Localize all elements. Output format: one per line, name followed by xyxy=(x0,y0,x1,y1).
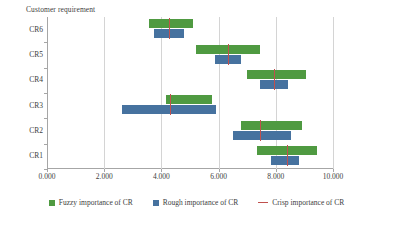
crisp-marker-cr2 xyxy=(260,120,261,141)
gridline xyxy=(333,17,334,169)
legend-swatch-icon xyxy=(49,200,55,206)
y-axis-tick xyxy=(44,68,47,69)
y-axis-tick xyxy=(44,42,47,43)
chart-legend: Fuzzy importance of CRRough importance o… xyxy=(0,198,393,207)
x-axis-tick-label: 6.000 xyxy=(210,172,227,181)
gridline xyxy=(104,17,105,169)
bar-rough-cr3 xyxy=(122,105,216,114)
legend-item-0[interactable]: Fuzzy importance of CR xyxy=(49,198,133,207)
bar-fuzzy-cr4 xyxy=(247,70,306,79)
y-axis-tick xyxy=(44,144,47,145)
x-axis-line xyxy=(47,168,333,169)
y-axis-tick-label: CR3 xyxy=(29,101,43,110)
legend-item-1[interactable]: Rough importance of CR xyxy=(153,198,239,207)
y-axis-tick-label: CR4 xyxy=(29,75,43,84)
legend-label: Fuzzy importance of CR xyxy=(59,198,133,207)
bar-fuzzy-cr3 xyxy=(166,95,212,104)
bar-rough-cr2 xyxy=(233,131,291,140)
x-axis-tick-label: 10.000 xyxy=(323,172,344,181)
bar-rough-cr1 xyxy=(271,156,299,165)
crisp-marker-cr5 xyxy=(228,44,229,65)
y-axis-tick-label: CR1 xyxy=(29,151,43,160)
y-axis-tick xyxy=(44,169,47,170)
y-axis-tick-label: CR6 xyxy=(29,25,43,34)
legend-item-2[interactable]: Crisp importance of CR xyxy=(258,198,344,207)
gridline xyxy=(219,17,220,169)
y-axis-tick xyxy=(44,93,47,94)
x-axis-tick-label: 4.000 xyxy=(153,172,170,181)
legend-label: Crisp importance of CR xyxy=(272,198,344,207)
y-axis-tick xyxy=(44,118,47,119)
x-axis-tick-label: 0.000 xyxy=(39,172,56,181)
x-axis-tick-label: 8.000 xyxy=(267,172,284,181)
y-axis-tick-label: CR5 xyxy=(29,50,43,59)
chart-container: Customer requirement CR6CR5CR4CR3CR2CR1 … xyxy=(0,0,393,228)
legend-label: Rough importance of CR xyxy=(163,198,239,207)
gridline xyxy=(161,17,162,169)
legend-line-icon xyxy=(258,202,268,203)
plot-area xyxy=(47,17,333,169)
y-axis-tick-label: CR2 xyxy=(29,126,43,135)
crisp-marker-cr1 xyxy=(287,145,288,166)
y-axis-title: Customer requirement xyxy=(26,5,95,14)
legend-swatch-icon xyxy=(153,200,159,206)
y-axis-labels: CR6CR5CR4CR3CR2CR1 xyxy=(0,17,43,169)
crisp-marker-cr3 xyxy=(170,94,171,115)
y-axis-line xyxy=(47,17,48,169)
crisp-marker-cr4 xyxy=(274,69,275,90)
bar-fuzzy-cr6 xyxy=(149,19,193,28)
bar-fuzzy-cr2 xyxy=(241,121,301,130)
x-axis-labels: 0.0002.0004.0006.0008.00010.000 xyxy=(0,172,393,186)
crisp-marker-cr6 xyxy=(169,18,170,39)
x-axis-tick-label: 2.000 xyxy=(96,172,113,181)
